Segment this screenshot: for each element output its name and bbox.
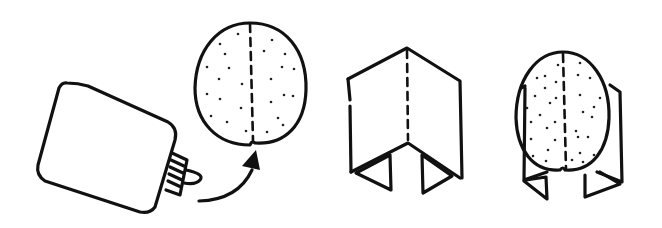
illustration xyxy=(0,0,662,228)
dotted-oval-icon xyxy=(195,23,306,145)
folded-card-icon xyxy=(348,48,462,193)
glue-bottle-icon xyxy=(38,83,201,213)
oval-on-card-icon xyxy=(516,52,622,199)
curved-arrow-icon xyxy=(199,150,260,201)
